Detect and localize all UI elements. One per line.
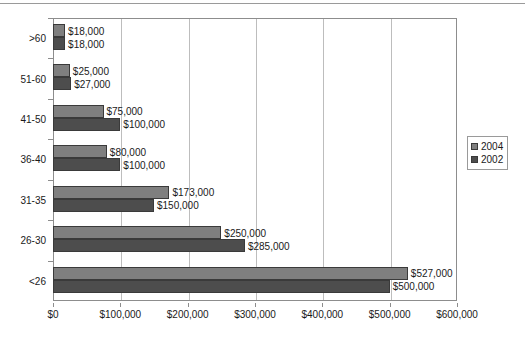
y-axis-category-label: 31-35 <box>0 194 46 205</box>
bar-value-label: $100,000 <box>123 159 165 170</box>
y-axis-tick <box>48 58 53 59</box>
x-axis-tick-label: $200,000 <box>167 309 209 321</box>
bar-rect <box>53 145 107 158</box>
legend-item-2002[interactable]: 2002 <box>471 153 503 166</box>
bar-rect <box>53 64 70 77</box>
bar-group-26_30: 26-30$250,000$285,000 <box>0 220 525 260</box>
legend-swatch-icon <box>471 143 478 150</box>
bar-rect <box>53 267 408 280</box>
bar-value-label: $173,000 <box>172 187 214 198</box>
bar-rect <box>53 186 169 199</box>
x-axis-tick-label: $300,000 <box>234 309 276 321</box>
bar-2004-41_50: $75,000 <box>53 105 104 118</box>
bar-2004-31_35: $173,000 <box>53 186 169 199</box>
x-axis-tick-label: $500,000 <box>369 309 411 321</box>
bar-group-51_60: 51-60$25,000$27,000 <box>0 58 525 98</box>
x-axis-tick <box>322 303 323 307</box>
y-axis-category-label: 51-60 <box>0 73 46 84</box>
legend-item-2004[interactable]: 2004 <box>471 140 503 153</box>
chart-page: >60$18,000$18,00051-60$25,000$27,00041-5… <box>0 0 525 339</box>
y-axis-category-label: 41-50 <box>0 114 46 125</box>
x-axis-tick <box>457 303 458 307</box>
bar-value-label: $250,000 <box>224 227 266 238</box>
bar-value-label: $500,000 <box>393 281 435 292</box>
bar-value-label: $285,000 <box>248 240 290 251</box>
x-axis: $0$100,000$200,000$300,000$400,000$500,0… <box>0 303 525 323</box>
y-axis-category-label: 36-40 <box>0 154 46 165</box>
bar-2002-_26: $500,000 <box>53 280 390 293</box>
bar-value-label: $80,000 <box>110 146 146 157</box>
bar-value-label: $75,000 <box>107 106 143 117</box>
bar-2004-_60: $18,000 <box>53 24 65 37</box>
x-axis-tick-label: $0 <box>47 309 58 321</box>
bar-value-label: $18,000 <box>68 38 104 49</box>
bar-value-label: $25,000 <box>73 65 109 76</box>
bar-2004-_26: $527,000 <box>53 267 408 280</box>
y-axis-tick <box>48 99 53 100</box>
bar-group-41_50: 41-50$75,000$100,000 <box>0 99 525 139</box>
y-axis-category-label: <26 <box>0 275 46 286</box>
y-axis-tick <box>48 261 53 262</box>
bar-2004-51_60: $25,000 <box>53 64 70 77</box>
bar-rect <box>53 239 245 252</box>
y-axis-tick <box>48 220 53 221</box>
x-axis-tick <box>120 303 121 307</box>
bar-2002-_60: $18,000 <box>53 37 65 50</box>
bar-2002-31_35: $150,000 <box>53 199 154 212</box>
legend-swatch-icon <box>471 156 478 163</box>
y-axis-category-label: >60 <box>0 33 46 44</box>
bar-group-_60: >60$18,000$18,000 <box>0 18 525 58</box>
x-axis-tick <box>390 303 391 307</box>
y-axis-category-label: 26-30 <box>0 235 46 246</box>
bar-rect <box>53 105 104 118</box>
y-axis-tick <box>48 180 53 181</box>
bar-rect <box>53 280 390 293</box>
bar-group-31_35: 31-35$173,000$150,000 <box>0 180 525 220</box>
top-divider <box>0 3 525 4</box>
bar-rect <box>53 226 221 239</box>
bar-2002-41_50: $100,000 <box>53 118 120 131</box>
x-axis-tick-label: $400,000 <box>301 309 343 321</box>
bar-group-_26: <26$527,000$500,000 <box>0 261 525 301</box>
bar-rect <box>53 37 65 50</box>
chart-legend: 20042002 <box>467 136 508 170</box>
bar-value-label: $27,000 <box>74 78 110 89</box>
bar-value-label: $150,000 <box>157 200 199 211</box>
y-axis-tick <box>48 139 53 140</box>
bar-rect <box>53 199 154 212</box>
bar-value-label: $527,000 <box>411 268 453 279</box>
bar-rect <box>53 158 120 171</box>
bar-rect <box>53 118 120 131</box>
bar-2004-26_30: $250,000 <box>53 226 221 239</box>
x-axis-tick-label: $100,000 <box>99 309 141 321</box>
bar-2002-26_30: $285,000 <box>53 239 245 252</box>
legend-label: 2002 <box>481 154 503 165</box>
x-axis-tick <box>53 303 54 307</box>
bar-2004-36_40: $80,000 <box>53 145 107 158</box>
bar-value-label: $100,000 <box>123 119 165 130</box>
x-axis-tick-label: $600,000 <box>436 309 478 321</box>
bar-rect <box>53 24 65 37</box>
bar-value-label: $18,000 <box>68 25 104 36</box>
y-axis-tick <box>48 18 53 19</box>
bar-2002-51_60: $27,000 <box>53 77 71 90</box>
bar-rows-container: >60$18,000$18,00051-60$25,000$27,00041-5… <box>0 18 525 301</box>
bar-group-36_40: 36-40$80,000$100,000 <box>0 139 525 179</box>
bar-2002-36_40: $100,000 <box>53 158 120 171</box>
x-axis-tick <box>255 303 256 307</box>
x-axis-tick <box>188 303 189 307</box>
bar-rect <box>53 77 71 90</box>
legend-label: 2004 <box>481 141 503 152</box>
